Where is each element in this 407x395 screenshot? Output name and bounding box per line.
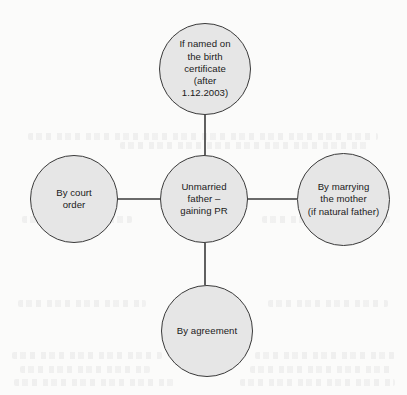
diagram-canvas: If named on the birth certificate (after…	[0, 0, 407, 395]
node-label: By marrying the mother (if natural fathe…	[304, 181, 383, 218]
node-label: If named on the birth certificate (after…	[175, 38, 234, 99]
node-label: By agreement	[173, 325, 241, 337]
node-by-agreement: By agreement	[161, 285, 253, 377]
node-label: By court order	[52, 187, 96, 212]
node-by-marrying-the-mother: By marrying the mother (if natural fathe…	[297, 153, 390, 246]
node-if-named-on-birth-certificate: If named on the birth certificate (after…	[159, 23, 251, 115]
node-label: Unmarried father – gaining PR	[176, 181, 231, 218]
node-by-court-order: By court order	[30, 155, 118, 243]
node-unmarried-father-gaining-pr: Unmarried father – gaining PR	[160, 155, 248, 243]
